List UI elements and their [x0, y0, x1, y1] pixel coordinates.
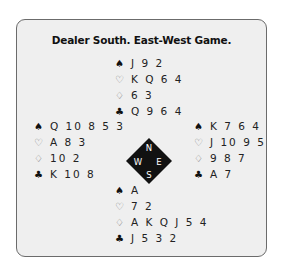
south-spades-cards: A [131, 184, 140, 196]
east-spades: ♠ K 7 6 4 [194, 118, 266, 134]
spade-icon: ♠ [34, 121, 50, 132]
compass-west-label: W [134, 157, 143, 167]
west-diamonds: ♢ 10 2 [34, 150, 125, 166]
club-icon: ♣ [34, 169, 50, 180]
compass-south-label: S [146, 170, 151, 180]
south-diamonds: ♢ A K Q J 5 4 [115, 214, 208, 230]
east-hearts-cards: J 10 9 5 [210, 136, 266, 148]
south-hearts-cards: 7 2 [131, 200, 154, 212]
east-hearts: ♡ J 10 9 5 [194, 134, 266, 150]
north-hearts-cards: K Q 6 4 [131, 73, 184, 85]
club-icon: ♣ [194, 169, 210, 180]
north-spades: ♠ J 9 2 [115, 55, 184, 71]
north-spades-cards: J 9 2 [131, 57, 164, 69]
north-hand: ♠ J 9 2 ♡ K Q 6 4 ♢ 6 3 ♣ Q 9 6 4 [115, 55, 184, 119]
east-clubs: ♣ A 7 [194, 166, 266, 182]
compass-east-label: E [156, 157, 161, 167]
deal-title: Dealer South. East-West Game. [17, 34, 266, 46]
north-clubs-cards: Q 9 6 4 [131, 105, 183, 117]
east-hand: ♠ K 7 6 4 ♡ J 10 9 5 ♢ 9 8 7 ♣ A 7 [194, 118, 266, 182]
south-hearts: ♡ 7 2 [115, 198, 208, 214]
north-diamonds-cards: 6 3 [131, 89, 154, 101]
diamond-icon: ♢ [115, 217, 131, 228]
heart-icon: ♡ [115, 201, 131, 212]
diamond-icon: ♢ [194, 153, 210, 164]
west-clubs: ♣ K 10 8 [34, 166, 125, 182]
south-spades: ♠ A [115, 182, 208, 198]
north-clubs: ♣ Q 9 6 4 [115, 103, 184, 119]
compass-icon: N W E S [126, 138, 172, 184]
spade-icon: ♠ [115, 185, 131, 196]
west-spades: ♠ Q 10 8 5 3 [34, 118, 125, 134]
south-clubs-cards: J 5 3 2 [131, 232, 178, 244]
heart-icon: ♡ [194, 137, 210, 148]
west-clubs-cards: K 10 8 [50, 168, 96, 180]
bridge-deal-panel: Dealer South. East-West Game. ♠ J 9 2 ♡ … [16, 19, 267, 257]
diamond-icon: ♢ [115, 90, 131, 101]
heart-icon: ♡ [115, 74, 131, 85]
spade-icon: ♠ [194, 121, 210, 132]
east-clubs-cards: A 7 [210, 168, 233, 180]
east-spades-cards: K 7 6 4 [210, 120, 261, 132]
south-clubs: ♣ J 5 3 2 [115, 230, 208, 246]
spade-icon: ♠ [115, 58, 131, 69]
north-hearts: ♡ K Q 6 4 [115, 71, 184, 87]
north-diamonds: ♢ 6 3 [115, 87, 184, 103]
south-hand: ♠ A ♡ 7 2 ♢ A K Q J 5 4 ♣ J 5 3 2 [115, 182, 208, 246]
west-spades-cards: Q 10 8 5 3 [50, 120, 125, 132]
south-diamonds-cards: A K Q J 5 4 [131, 216, 208, 228]
club-icon: ♣ [115, 106, 131, 117]
west-diamonds-cards: 10 2 [50, 152, 81, 164]
west-hearts: ♡ A 8 3 [34, 134, 125, 150]
west-hearts-cards: A 8 3 [50, 136, 87, 148]
west-hand: ♠ Q 10 8 5 3 ♡ A 8 3 ♢ 10 2 ♣ K 10 8 [34, 118, 125, 182]
compass-diamond: N W E S [126, 138, 172, 184]
compass-north-label: N [146, 143, 152, 153]
club-icon: ♣ [115, 233, 131, 244]
east-diamonds-cards: 9 8 7 [210, 152, 247, 164]
east-diamonds: ♢ 9 8 7 [194, 150, 266, 166]
heart-icon: ♡ [34, 137, 50, 148]
diamond-icon: ♢ [34, 153, 50, 164]
